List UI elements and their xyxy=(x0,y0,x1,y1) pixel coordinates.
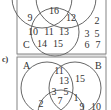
region-value: 12 xyxy=(66,12,76,23)
region-value: 15 xyxy=(75,73,85,84)
outside-value: 6 xyxy=(85,39,90,50)
set-label-a: A xyxy=(23,60,31,71)
region-value: 13 xyxy=(59,26,69,37)
region-value: 11 xyxy=(44,26,54,37)
region-value: 15 xyxy=(53,38,63,49)
set-label-c: C xyxy=(23,39,30,50)
region-value: 2 xyxy=(39,98,44,109)
outside-value: 3 xyxy=(85,28,90,39)
outside-value: 7 xyxy=(96,39,101,50)
outside-value: 5 xyxy=(95,28,100,39)
region-value: 10 xyxy=(28,26,38,37)
outside-value: 2 xyxy=(95,15,100,26)
region-value: 7 xyxy=(58,95,63,106)
region-value: 16 xyxy=(49,5,59,16)
region-value: 5 xyxy=(64,86,69,97)
venn-diagrams: C 16912101113141523567 c) A B 1113153571… xyxy=(0,0,111,110)
region-value: 3 xyxy=(52,86,57,97)
region-value: 1 xyxy=(74,92,79,103)
part-label: c) xyxy=(2,55,9,64)
set-a-circle xyxy=(12,0,72,28)
venn-diagram-top: C 16912101113141523567 xyxy=(12,0,106,56)
set-label-b: B xyxy=(95,60,102,71)
region-value: 10 xyxy=(91,101,101,110)
region-value: 14 xyxy=(37,38,47,49)
region-value: 9 xyxy=(80,101,85,110)
venn-diagram-c: c) A B 11131535712910 xyxy=(2,55,106,110)
region-value: 13 xyxy=(59,75,69,86)
region-value: 9 xyxy=(28,12,33,23)
